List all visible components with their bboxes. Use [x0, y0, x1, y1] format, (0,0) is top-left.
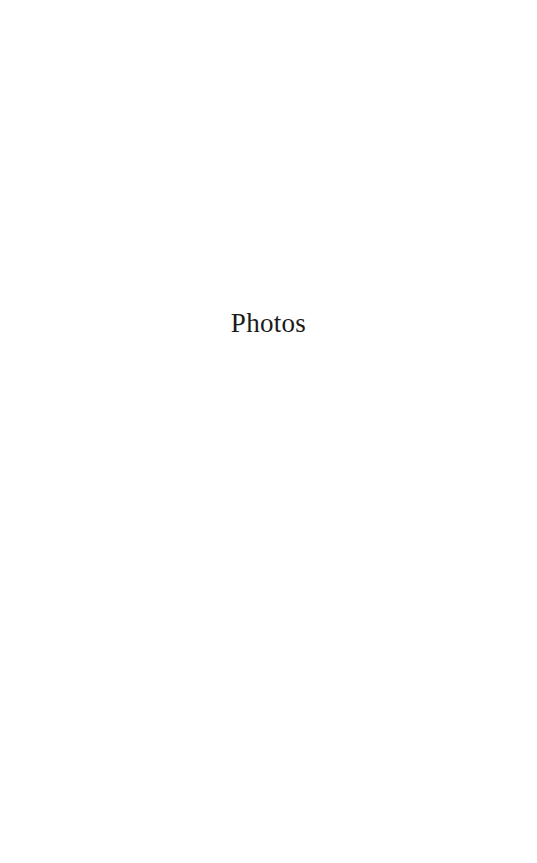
section-title: Photos — [0, 308, 537, 339]
document-page: Photos — [0, 0, 537, 863]
